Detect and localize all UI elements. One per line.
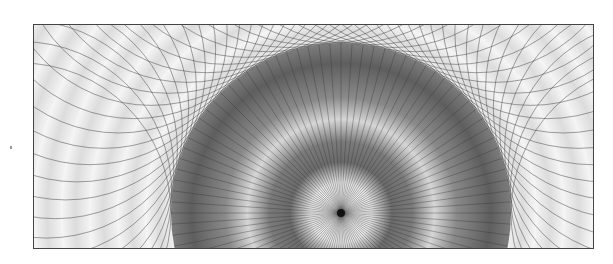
geometric-pattern xyxy=(34,25,594,249)
pattern-frame xyxy=(33,24,594,249)
stray-mark xyxy=(10,146,12,149)
